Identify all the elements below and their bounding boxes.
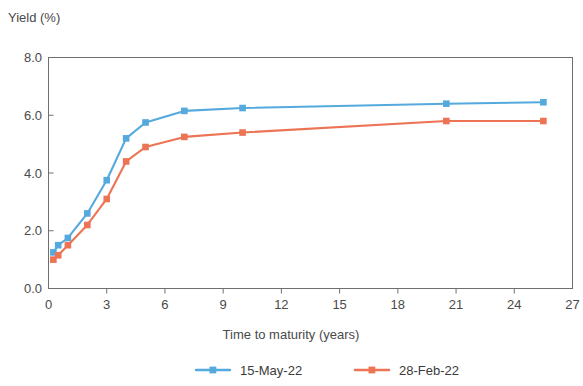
data-point-marker [239,129,246,136]
data-point-marker [123,135,130,142]
data-point-marker [540,118,547,125]
x-axis-tick-labels: 0369121518212427 [45,297,580,312]
x-tick-label: 18 [391,297,405,312]
data-point-marker [103,177,110,184]
legend-swatch-marker [210,367,217,374]
x-tick-label: 12 [274,297,288,312]
x-tick-label: 0 [45,297,52,312]
x-tick-label: 21 [449,297,463,312]
axis-tick-marks [49,115,515,293]
x-axis-title: Time to maturity (years) [223,327,360,342]
x-tick-label: 15 [332,297,346,312]
data-point-marker [443,100,450,107]
chart-canvas: Yield (%) 0.02.04.06.08.0 03691215182124… [0,0,583,386]
y-tick-label: 4.0 [24,166,42,181]
legend-label: 28-Feb-22 [399,363,459,378]
series-line [53,102,543,252]
data-point-marker [123,158,130,165]
x-tick-label: 24 [507,297,521,312]
y-tick-label: 6.0 [24,108,42,123]
x-tick-label: 6 [161,297,168,312]
data-point-marker [181,108,188,115]
plot-area-frame [49,58,573,289]
legend-item-28-feb-22[interactable]: 28-Feb-22 [355,363,459,378]
data-point-marker [103,196,110,203]
data-point-marker [65,242,72,249]
series-line [53,121,543,260]
data-point-marker [443,118,450,125]
data-point-marker [142,119,149,126]
y-tick-label: 2.0 [24,223,42,238]
y-axis-tick-labels: 0.02.04.06.08.0 [24,50,42,296]
data-point-marker [181,134,188,141]
series-15-may-22 [50,99,547,256]
legend-swatch-marker [369,367,376,374]
chart-legend: 15-May-2228-Feb-22 [196,363,459,378]
x-tick-label: 27 [565,297,579,312]
y-tick-label: 8.0 [24,50,42,65]
legend-item-15-may-22[interactable]: 15-May-22 [196,363,302,378]
legend-label: 15-May-22 [240,363,302,378]
data-series-layer [50,99,547,263]
y-tick-label: 0.0 [24,281,42,296]
data-point-marker [84,210,91,217]
x-tick-label: 9 [220,297,227,312]
yield-curve-chart: Yield (%) 0.02.04.06.08.0 03691215182124… [0,0,583,386]
data-point-marker [142,144,149,151]
data-point-marker [540,99,547,106]
data-point-marker [55,252,62,259]
y-axis-title: Yield (%) [8,10,60,25]
data-point-marker [65,235,72,242]
data-point-marker [55,242,62,249]
data-point-marker [84,222,91,229]
x-tick-label: 3 [103,297,110,312]
data-point-marker [239,105,246,112]
